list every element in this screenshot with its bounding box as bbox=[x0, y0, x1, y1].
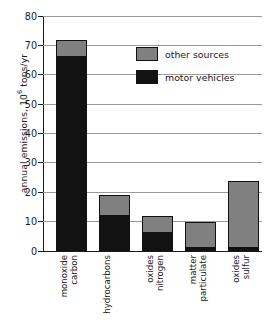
x-axis-tick-label-line: matter bbox=[189, 255, 198, 284]
y-axis-tick-mark bbox=[38, 74, 43, 75]
bar-segment-motor-vehicles bbox=[228, 248, 259, 251]
legend-label-other-sources: other sources bbox=[165, 49, 229, 60]
y-axis-tick-label: 0 bbox=[31, 245, 37, 256]
chart-legend: other sources motor vehicles bbox=[136, 47, 234, 93]
y-axis-tick-label: 70 bbox=[25, 39, 37, 50]
y-axis-tick-mark bbox=[38, 45, 43, 46]
bar-segment-motor-vehicles bbox=[142, 233, 173, 251]
x-axis-tick-label: particulatematter bbox=[189, 255, 208, 302]
x-axis-tick-label-line: carbon bbox=[70, 255, 79, 285]
bar-segment-motor-vehicles bbox=[185, 248, 216, 251]
bar-segment-other-sources bbox=[56, 40, 87, 58]
bar-segment-motor-vehicles bbox=[99, 216, 130, 251]
y-axis-tick-mark bbox=[38, 133, 43, 134]
legend-swatch-motor-vehicles bbox=[136, 70, 158, 84]
bar-segment-other-sources bbox=[142, 216, 173, 234]
x-axis-tick-label-line: monoxide bbox=[60, 255, 69, 297]
x-axis-tick-label-line: oxides bbox=[232, 255, 241, 283]
x-axis-tick-label: hydrocarbons bbox=[103, 255, 112, 314]
legend-label-motor-vehicles: motor vehicles bbox=[165, 72, 234, 83]
y-axis-tick-label: 60 bbox=[25, 69, 37, 80]
legend-swatch-other-sources bbox=[136, 47, 158, 61]
x-axis-tick-label-line: particulate bbox=[199, 255, 208, 302]
y-axis-tick-label: 40 bbox=[25, 128, 37, 139]
legend-item: other sources bbox=[136, 47, 234, 61]
x-axis-tick-label-line: oxides bbox=[146, 255, 155, 283]
y-axis-tick-label: 50 bbox=[25, 98, 37, 109]
y-axis-title-exponent: 6 bbox=[16, 90, 24, 94]
x-axis-tick-label-line: sulfur bbox=[242, 255, 251, 279]
y-axis-tick-label: 30 bbox=[25, 157, 37, 168]
y-axis-tick-label: 10 bbox=[25, 216, 37, 227]
bar-group bbox=[99, 16, 130, 251]
bar-segment-motor-vehicles bbox=[56, 57, 87, 251]
bar-segment-other-sources bbox=[99, 195, 130, 216]
y-axis-tick-mark bbox=[38, 192, 43, 193]
x-axis-tick-label-line: hydrocarbons bbox=[103, 255, 112, 314]
y-axis-tick-label: 20 bbox=[25, 186, 37, 197]
emissions-bar-chart: annual emissions, 106 tons/yr 0102030405… bbox=[0, 0, 273, 327]
y-axis-tick-mark bbox=[38, 162, 43, 163]
bar-segment-other-sources bbox=[185, 222, 216, 248]
x-axis-tick-label: nitrogenoxides bbox=[146, 255, 165, 291]
bar-segment-other-sources bbox=[228, 181, 259, 249]
y-axis-tick-label: 80 bbox=[25, 10, 37, 21]
y-axis-tick-mark bbox=[38, 104, 43, 105]
bar-group bbox=[56, 16, 87, 251]
y-axis-tick-mark bbox=[38, 16, 43, 17]
legend-item: motor vehicles bbox=[136, 70, 234, 84]
x-axis-tick-label-line: nitrogen bbox=[156, 255, 165, 291]
y-axis-tick-mark bbox=[38, 251, 43, 252]
x-axis-tick-label: carbonmonoxide bbox=[60, 255, 79, 297]
x-axis-tick-label: sulfuroxides bbox=[232, 255, 251, 283]
y-axis-tick-mark bbox=[38, 221, 43, 222]
